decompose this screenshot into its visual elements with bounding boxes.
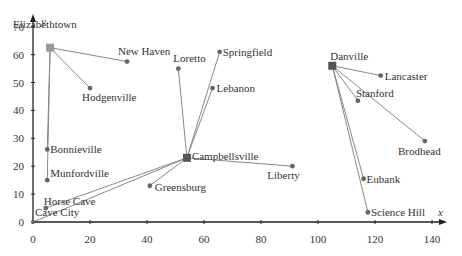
y-tick-label: 50 xyxy=(13,77,25,89)
y-tick-label: 40 xyxy=(13,104,25,116)
point-label-eubank: Eubank xyxy=(367,173,401,185)
point-marker-greensburg xyxy=(147,183,152,188)
point-label-liberty: Liberty xyxy=(267,169,300,181)
chart-container: 020406080100120140010203040506070xyEliza… xyxy=(0,0,462,256)
point-label-lebanon: Lebanon xyxy=(217,82,256,94)
point-label-elizabethtown: Elizabethtown xyxy=(13,18,77,30)
point-label-new-haven: New Haven xyxy=(118,45,171,57)
x-tick-label: 60 xyxy=(199,233,211,245)
point-marker-brodhead xyxy=(422,139,427,144)
point-marker-liberty xyxy=(290,164,295,169)
point-label-danville: Danville xyxy=(330,50,368,62)
point-marker-hodgenville xyxy=(88,86,93,91)
point-marker-munfordville xyxy=(45,178,50,183)
scatter-network-chart: 020406080100120140010203040506070xyEliza… xyxy=(0,0,462,256)
point-marker-stanford xyxy=(356,98,361,103)
y-tick-label: 60 xyxy=(13,49,25,61)
x-tick-label: 100 xyxy=(310,233,327,245)
point-marker-cave-city xyxy=(31,220,35,224)
point-label-bonnieville: Bonnieville xyxy=(50,143,101,155)
x-tick-label: 140 xyxy=(424,233,441,245)
point-label-science-hill: Science Hill xyxy=(371,206,425,218)
point-marker-loretto xyxy=(176,66,181,71)
point-label-springfield: Springfield xyxy=(223,46,273,58)
point-marker-science-hill xyxy=(365,210,370,215)
point-label-hodgenville: Hodgenville xyxy=(82,91,136,103)
y-tick-label: 30 xyxy=(13,132,25,144)
point-label-loretto: Loretto xyxy=(173,52,206,64)
x-tick-label: 20 xyxy=(85,233,97,245)
point-marker-bonnieville xyxy=(45,147,50,152)
edge-line xyxy=(47,48,50,181)
hub-marker-elizabethtown xyxy=(46,44,54,52)
point-label-cave-city: Cave City xyxy=(35,206,80,218)
y-tick-label: 20 xyxy=(13,160,25,172)
x-tick-label: 80 xyxy=(256,233,268,245)
point-label-munfordville: Munfordville xyxy=(50,167,109,179)
edge-line xyxy=(332,66,380,76)
point-marker-springfield xyxy=(217,49,222,54)
point-label-stanford: Stanford xyxy=(356,87,394,99)
point-label-brodhead: Brodhead xyxy=(398,145,441,157)
hub-marker-campbellsville xyxy=(183,154,191,162)
point-marker-lancaster xyxy=(378,73,383,78)
point-marker-new-haven xyxy=(125,59,130,64)
x-tick-label: 120 xyxy=(367,233,384,245)
x-axis-arrow-icon xyxy=(439,219,447,225)
edge-line xyxy=(187,52,220,158)
hub-marker-danville xyxy=(328,62,336,70)
points: ElizabethtownNew HavenHodgenvilleBonniev… xyxy=(13,18,441,224)
x-tick-label: 0 xyxy=(30,233,36,245)
point-marker-eubank xyxy=(361,176,366,181)
point-marker-lebanon xyxy=(210,86,215,91)
point-label-greensburg: Greensburg xyxy=(155,181,207,193)
point-label-campbellsville: Campbellsville xyxy=(192,150,259,162)
y-tick-label: 0 xyxy=(19,216,25,228)
edge-line xyxy=(332,66,363,179)
edge-line xyxy=(187,88,213,158)
point-label-lancaster: Lancaster xyxy=(385,70,428,82)
x-tick-label: 40 xyxy=(142,233,154,245)
edge-line xyxy=(178,69,187,158)
y-tick-label: 10 xyxy=(13,188,25,200)
x-axis-label: x xyxy=(437,206,443,218)
